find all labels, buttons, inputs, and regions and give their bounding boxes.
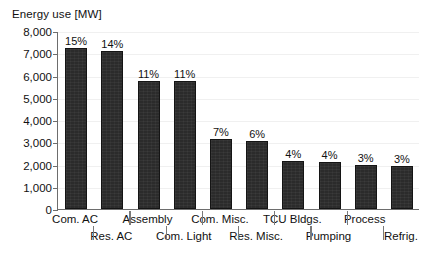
category-separator [274,211,275,225]
x-axis-category-label: TCU Bldgs. [263,213,322,226]
category-separator [310,226,311,240]
y-axis-tick-label: 1,000 [23,182,52,194]
bar [391,166,413,209]
bar [282,161,304,209]
bar [101,51,123,209]
bars-layer: 15%14%11%11%7%6%4%4%3%3% [58,32,419,209]
bar-value-label: 11% [174,68,195,80]
y-axis-labels: 8,0007,0006,0005,0004,0003,0002,0001,000… [0,32,52,210]
chart-axis-title: Energy use [MW] [12,8,102,21]
y-axis-tick-label: 4,000 [23,115,52,127]
x-axis-category-label: Process [344,213,386,226]
bar [65,48,87,209]
bar-value-label: 4% [322,149,338,161]
y-axis-tick-label: 7,000 [23,48,52,60]
y-axis-tick-label: 5,000 [23,93,52,105]
bar [246,141,268,209]
x-axis-category-label: Pumping [306,230,351,243]
x-axis-labels: Com. ACRes. ACAssemblyCom. LightCom. Mis… [0,210,433,258]
category-separator [93,226,94,240]
x-axis-category-label: Refrig. [384,230,418,243]
bar [319,162,341,209]
x-axis-category-label: Com. Misc. [191,213,249,226]
bar [138,81,160,209]
bar-chart: Energy use [MW] 8,0007,0006,0005,0004,00… [0,0,433,258]
bar-value-label: 6% [249,128,265,140]
x-axis-category-label: Com. AC [52,213,98,226]
bar [355,165,377,210]
x-axis-category-label: Com. Light [156,230,212,243]
y-axis-tick-label: 3,000 [23,137,52,149]
category-separator [129,211,130,225]
category-separator [166,226,167,240]
y-axis-tick-label: 2,000 [23,160,52,172]
category-separator [347,211,348,225]
bar-value-label: 4% [285,148,301,160]
category-separator [383,226,384,240]
bar-value-label: 15% [65,35,87,47]
category-separator [202,211,203,225]
bar [210,139,232,209]
bar-value-label: 3% [358,152,374,164]
bar-value-label: 7% [213,126,229,138]
category-separator [238,226,239,240]
bar-value-label: 3% [394,153,410,165]
bar-value-label: 11% [138,68,159,80]
y-axis-tick-label: 6,000 [23,71,52,83]
y-axis-tick-label: 8,000 [23,26,52,38]
bar [174,81,196,209]
x-axis-category-label: Res. AC [90,230,132,243]
bar-value-label: 14% [101,38,123,50]
plot-area: 15%14%11%11%7%6%4%4%3%3% [57,32,419,210]
